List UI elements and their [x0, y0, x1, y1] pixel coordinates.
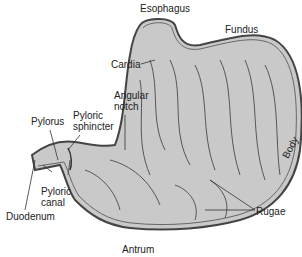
label-fundus: Fundus — [225, 24, 258, 35]
label-pyloric-canal-line1: Pyloric — [41, 186, 71, 197]
label-pyloric-canal-line2: canal — [41, 197, 65, 208]
label-esophagus: Esophagus — [140, 3, 190, 14]
label-pylorus: Pylorus — [31, 116, 64, 127]
label-cardia: Cardia — [111, 59, 140, 70]
label-angular-notch-line2: notch — [114, 101, 138, 112]
label-rugae: Rugae — [256, 206, 285, 217]
stomach-diagram: Esophagus Fundus Cardia Angular notch Py… — [0, 0, 302, 257]
label-pyloric-sphincter-line1: Pyloric — [73, 110, 103, 121]
label-duodenum: Duodenum — [6, 211, 55, 222]
label-pyloric-sphincter-line2: sphincter — [73, 121, 114, 132]
label-antrum: Antrum — [122, 244, 154, 255]
label-angular-notch-line1: Angular — [114, 90, 148, 101]
